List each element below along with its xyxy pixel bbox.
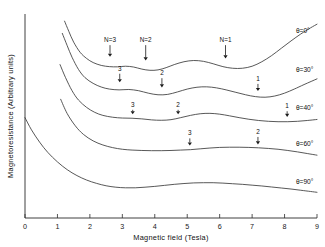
curve-label-group: θ=0°θ=30°θ=40°θ=60°θ=90° <box>296 27 314 184</box>
curve-label-2: θ=40° <box>296 104 314 111</box>
curve-0 <box>65 21 317 70</box>
arrow-label-8: 1 <box>285 102 289 109</box>
arrow-label-10: 2 <box>256 128 260 135</box>
arrow-head-10 <box>256 141 260 144</box>
plot-canvas: 0123456789 θ=0°θ=30°θ=40°θ=60°θ=90° N=3N… <box>0 0 325 247</box>
annotation-group: N=3N=2N=132132132 <box>104 36 289 145</box>
x-tick-label: 7 <box>250 222 254 231</box>
arrow-head-6 <box>131 111 135 114</box>
x-tick-marks <box>25 214 317 218</box>
x-tick-label: 1 <box>55 222 59 231</box>
x-tick-label: 6 <box>218 222 222 231</box>
y-axis-title: Magnetoresistance (Arbitrary units) <box>6 54 15 178</box>
arrow-head-8 <box>285 114 289 117</box>
arrow-label-5: 1 <box>256 75 260 82</box>
arrow-label-2: N=1 <box>220 36 232 43</box>
curve-3 <box>61 99 317 155</box>
arrow-head-5 <box>256 88 260 91</box>
arrow-head-7 <box>176 111 180 114</box>
arrow-label-1: N=2 <box>140 36 152 43</box>
x-tick-label: 9 <box>315 222 319 231</box>
curve-label-1: θ=30° <box>296 66 314 73</box>
arrow-head-2 <box>223 55 227 58</box>
x-tick-label: 5 <box>185 222 189 231</box>
arrow-label-0: N=3 <box>104 36 116 43</box>
arrow-label-3: 3 <box>118 65 122 72</box>
x-tick-labels: 0123456789 <box>23 222 319 231</box>
x-axis-title: Magnetic field (Tesla) <box>133 233 208 242</box>
curve-4 <box>25 118 317 193</box>
arrow-head-3 <box>118 79 122 82</box>
curve-group <box>25 21 317 192</box>
x-tick-label: 4 <box>153 222 157 231</box>
curve-label-3: θ=60° <box>296 140 314 147</box>
arrow-head-0 <box>108 54 112 57</box>
x-tick-label: 3 <box>120 222 124 231</box>
magnetoresistance-figure: 0123456789 θ=0°θ=30°θ=40°θ=60°θ=90° N=3N… <box>0 0 325 247</box>
x-tick-label: 8 <box>283 222 287 231</box>
curve-2 <box>60 65 317 122</box>
curve-label-4: θ=90° <box>296 178 314 185</box>
arrow-label-7: 2 <box>176 101 180 108</box>
arrow-head-4 <box>160 84 164 87</box>
arrow-label-9: 3 <box>188 129 192 136</box>
arrow-label-4: 2 <box>160 69 164 76</box>
curve-label-0: θ=0° <box>296 27 310 34</box>
x-tick-label: 2 <box>88 222 92 231</box>
x-tick-label: 0 <box>23 222 27 231</box>
arrow-head-1 <box>144 57 148 60</box>
arrow-label-6: 3 <box>131 101 135 108</box>
arrow-head-9 <box>188 142 192 145</box>
